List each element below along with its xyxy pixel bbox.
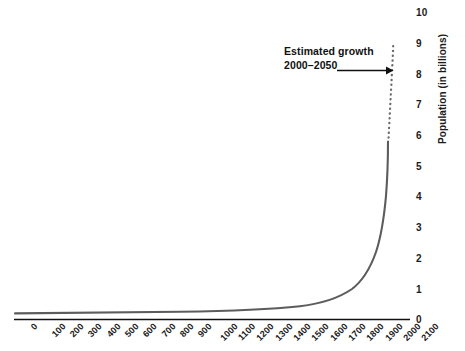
population-growth-chart: Estimated growth 2000–2050 10 9 8 7 6 5 … — [0, 0, 465, 351]
x-tick-2100: 2100 — [420, 322, 441, 343]
annotation-line-2: 2000–2050 — [284, 58, 374, 72]
x-tick-1700: 1700 — [347, 322, 368, 343]
x-tick-1400: 1400 — [292, 322, 313, 343]
x-tick-1000: 1000 — [219, 322, 240, 343]
y-axis-tick-labels: 10 9 8 7 6 5 4 3 2 1 0 — [416, 0, 438, 351]
y-tick-9: 9 — [416, 39, 438, 49]
x-tick-1300: 1300 — [274, 322, 295, 343]
x-tick-700: 700 — [160, 322, 177, 339]
x-tick-1900: 1900 — [384, 322, 405, 343]
x-tick-0: 0 — [29, 322, 39, 332]
estimated-growth-dotted-line — [389, 43, 394, 138]
x-tick-900: 900 — [196, 322, 213, 339]
x-tick-2000: 2000 — [402, 322, 423, 343]
x-tick-1200: 1200 — [255, 322, 276, 343]
y-tick-10: 10 — [416, 8, 438, 18]
historical-population-curve — [15, 142, 388, 314]
y-tick-8: 8 — [416, 70, 438, 80]
y-tick-1: 1 — [416, 285, 438, 295]
y-axis-title: Population (in billions) — [437, 14, 448, 144]
y-tick-7: 7 — [416, 100, 438, 110]
x-axis-tick-labels: 0 100 200 300 400 500 600 700 800 900 10… — [0, 322, 465, 351]
x-tick-500: 500 — [123, 322, 140, 339]
x-tick-300: 300 — [86, 322, 103, 339]
x-tick-200: 200 — [68, 322, 85, 339]
chart-plot-area — [0, 0, 465, 351]
y-tick-5: 5 — [416, 162, 438, 172]
x-tick-600: 600 — [141, 322, 158, 339]
y-tick-6: 6 — [416, 131, 438, 141]
y-tick-2: 2 — [416, 254, 438, 264]
x-tick-1500: 1500 — [310, 322, 331, 343]
y-tick-4: 4 — [416, 192, 438, 202]
x-tick-400: 400 — [105, 322, 122, 339]
x-tick-1800: 1800 — [365, 322, 386, 343]
x-tick-100: 100 — [50, 322, 67, 339]
x-tick-800: 800 — [178, 322, 195, 339]
x-tick-1600: 1600 — [329, 322, 350, 343]
estimated-growth-annotation: Estimated growth 2000–2050 — [284, 44, 374, 72]
y-tick-3: 3 — [416, 223, 438, 233]
annotation-line-1: Estimated growth — [284, 45, 374, 57]
x-tick-1100: 1100 — [237, 322, 257, 342]
